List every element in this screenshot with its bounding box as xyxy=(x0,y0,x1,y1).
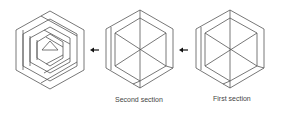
second-section-label: Second section xyxy=(115,96,163,103)
second-section-hexagon xyxy=(106,10,173,88)
first-section-hexagon xyxy=(196,10,264,88)
arrow-icon xyxy=(90,48,99,53)
first-section-label: First section xyxy=(213,95,251,102)
final-hexagon-figure xyxy=(16,11,84,89)
arrow-icon xyxy=(179,48,188,53)
